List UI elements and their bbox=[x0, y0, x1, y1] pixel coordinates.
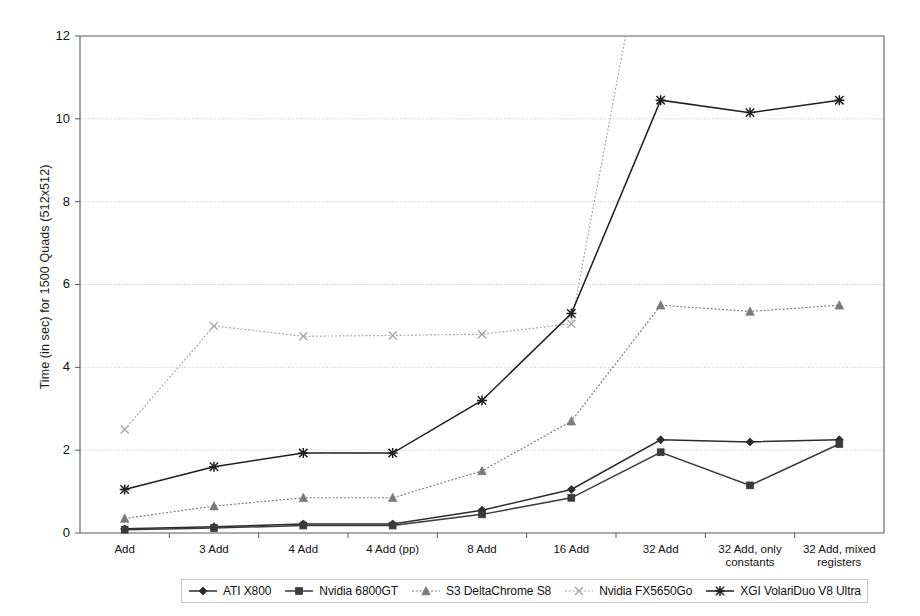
data-point-triangle bbox=[656, 301, 664, 309]
legend-symbol-square-icon bbox=[284, 584, 314, 598]
data-point-square bbox=[836, 441, 843, 448]
data-point-asterisk bbox=[477, 395, 487, 405]
data-point-square bbox=[747, 482, 754, 489]
data-point-square bbox=[296, 588, 303, 595]
data-point-asterisk bbox=[209, 462, 219, 472]
y-axis-tick-label: 12 bbox=[56, 28, 70, 43]
y-axis-tick-label: 10 bbox=[56, 111, 70, 126]
chart-container: Time (in sec) for 1500 Quads (512x512) 0… bbox=[0, 0, 920, 616]
series-nvidia-6800gt bbox=[121, 441, 842, 534]
data-point-asterisk bbox=[120, 485, 130, 495]
series-line bbox=[125, 305, 840, 518]
x-axis-tick-label: 4 Add bbox=[289, 543, 318, 555]
data-point-asterisk bbox=[388, 448, 398, 458]
data-point-asterisk bbox=[298, 448, 308, 458]
legend-item-label: Nvidia FX5650Go bbox=[599, 584, 692, 598]
legend-item[interactable]: Nvidia 6800GT bbox=[284, 584, 398, 598]
series-nvidia-fx5650go bbox=[121, 0, 661, 433]
data-point-square bbox=[389, 522, 396, 529]
x-axis-tick-label: 32 Add bbox=[643, 543, 679, 555]
y-axis-tick-label: 2 bbox=[63, 442, 70, 457]
x-axis-tick-label: 4 Add (pp) bbox=[366, 543, 419, 555]
series-line bbox=[125, 0, 661, 429]
data-point-triangle bbox=[478, 466, 486, 474]
series-line bbox=[125, 100, 840, 489]
data-point-square bbox=[121, 526, 128, 533]
data-point-diamond bbox=[657, 436, 665, 444]
data-point-asterisk bbox=[656, 95, 666, 105]
data-point-asterisk bbox=[745, 108, 755, 118]
data-point-diamond bbox=[199, 587, 207, 595]
legend-symbol-diamond-icon bbox=[188, 584, 218, 598]
legend-item[interactable]: Nvidia FX5650Go bbox=[564, 584, 692, 598]
y-axis-tick-label: 4 bbox=[63, 359, 70, 374]
x-axis-tick-label: constants bbox=[725, 556, 774, 568]
data-point-diamond bbox=[567, 486, 575, 494]
data-point-square bbox=[657, 449, 664, 456]
legend-item[interactable]: S3 DeltaChrome S8 bbox=[411, 584, 551, 598]
legend-symbol-cross-icon bbox=[564, 584, 594, 598]
data-point-square bbox=[300, 522, 307, 529]
data-point-square bbox=[568, 494, 575, 501]
data-point-triangle bbox=[120, 514, 128, 522]
data-point-cross bbox=[210, 322, 218, 330]
legend-symbol-asterisk-icon bbox=[705, 584, 735, 598]
legend-item-label: ATI X800 bbox=[223, 584, 271, 598]
legend-item-label: XGI VolariDuo V8 Ultra bbox=[740, 584, 861, 598]
x-axis-tick-label: 3 Add bbox=[199, 543, 228, 555]
series-xgi-volariduo-v8-ultra bbox=[120, 95, 845, 494]
data-point-square bbox=[211, 525, 218, 532]
data-point-cross bbox=[121, 425, 129, 433]
data-point-diamond bbox=[746, 438, 754, 446]
x-axis-tick-label: 16 Add bbox=[553, 543, 589, 555]
line-chart-plot: 024681012Add3 Add4 Add4 Add (pp)8 Add16 … bbox=[0, 0, 920, 616]
legend-symbol-triangle-icon bbox=[411, 584, 441, 598]
data-point-asterisk bbox=[566, 308, 576, 318]
x-axis-tick-label: registers bbox=[817, 556, 861, 568]
legend-item-label: S3 DeltaChrome S8 bbox=[446, 584, 551, 598]
chart-legend: ATI X800Nvidia 6800GTS3 DeltaChrome S8Nv… bbox=[181, 579, 868, 603]
data-point-asterisk bbox=[834, 95, 844, 105]
legend-item[interactable]: ATI X800 bbox=[188, 584, 271, 598]
x-axis-tick-label: Add bbox=[114, 543, 134, 555]
data-point-square bbox=[479, 511, 486, 518]
y-axis-tick-label: 6 bbox=[63, 276, 70, 291]
y-axis-tick-label: 8 bbox=[63, 194, 70, 209]
legend-item-label: Nvidia 6800GT bbox=[319, 584, 398, 598]
data-point-asterisk bbox=[715, 586, 725, 596]
y-axis-tick-label: 0 bbox=[63, 525, 70, 540]
x-axis-tick-label: 32 Add, only bbox=[718, 543, 782, 555]
x-axis-tick-label: 8 Add bbox=[467, 543, 496, 555]
legend-item[interactable]: XGI VolariDuo V8 Ultra bbox=[705, 584, 861, 598]
x-axis-tick-label: 32 Add, mixed bbox=[803, 543, 876, 555]
